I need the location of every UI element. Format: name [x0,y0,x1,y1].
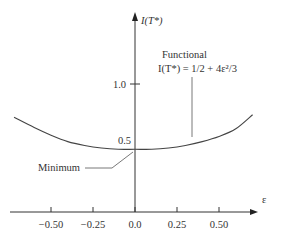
x-tick-label: 0.25 [168,219,186,230]
minimum-label: Minimum [38,162,80,173]
minimum-leader-line [85,152,133,168]
x-tick-label: −0.50 [39,219,63,230]
y-tick-label: 1.0 [113,79,126,90]
functional-formula: I(T*) = 1/2 + 4ε²/3 [158,63,237,75]
axes [10,12,258,215]
x-axis-label: ε [262,194,267,205]
functional-curve [14,115,253,150]
y-axis-label: I(T*) [140,15,163,27]
chart: −0.50−0.250.00.250.50 0.51.0 ε I(T*) Fun… [0,0,285,240]
x-axis-arrow-icon [250,209,258,215]
x-tick-label: 0.0 [128,219,141,230]
y-ticks: 0.51.0 [113,79,140,146]
y-tick-label: 0.5 [118,135,131,146]
minimum-annotation: Minimum [38,152,133,173]
x-tick-label: 0.50 [210,219,228,230]
x-tick-label: −0.25 [81,219,105,230]
x-ticks: −0.50−0.250.00.250.50 [39,207,228,230]
y-axis-arrow-icon [132,12,138,21]
functional-label: Functional [162,49,207,60]
functional-annotation: Functional I(T*) = 1/2 + 4ε²/3 [158,49,237,137]
